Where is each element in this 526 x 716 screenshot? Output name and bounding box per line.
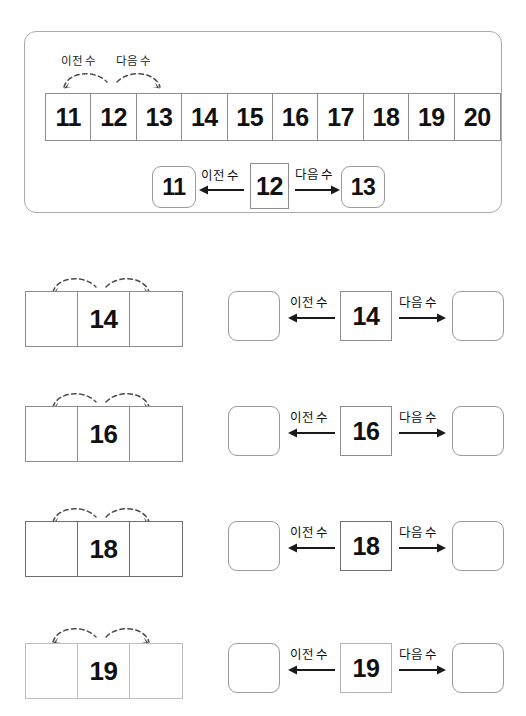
exercise-3-number-strip: 18 <box>25 521 183 577</box>
strip-cell-previous[interactable] <box>26 644 78 698</box>
strip-cell-next[interactable] <box>130 292 182 346</box>
exercise-4-previous-answer-box[interactable] <box>228 643 280 693</box>
strip-cell: 11 <box>46 94 91 140</box>
exercise-1-arrow-left <box>288 312 336 324</box>
exercise-3-arrow-right <box>398 542 446 554</box>
strip-cell-next[interactable] <box>130 644 182 698</box>
exercise-4-number-strip: 19 <box>25 643 183 699</box>
exercise-4-arrow-left <box>288 664 336 676</box>
strip-cell-given: 16 <box>78 407 130 461</box>
example-flow-next-label: 다음 수 <box>295 164 333 183</box>
arc-next-path <box>117 74 160 87</box>
strip-cell-given: 14 <box>78 292 130 346</box>
strip-cell-next[interactable] <box>130 407 182 461</box>
exercise-4-next-label: 다음 수 <box>399 644 437 663</box>
exercise-1-number-strip: 14 <box>25 291 183 347</box>
example-flow-previous-label: 이전 수 <box>201 165 239 184</box>
exercise-3-next-label: 다음 수 <box>399 522 437 541</box>
exercise-4-given-number-box: 19 <box>340 643 392 693</box>
exercise-2-next-answer-box[interactable] <box>452 406 504 456</box>
exercise-1-previous-answer-box[interactable] <box>228 291 280 341</box>
strip-cell-previous[interactable] <box>26 292 78 346</box>
exercise-4-previous-label: 이전 수 <box>290 644 328 663</box>
strip-cell-given: 18 <box>78 522 130 576</box>
example-number-strip: 11 12 13 14 15 16 17 18 19 20 <box>45 93 501 141</box>
arc-previous-path <box>64 74 107 87</box>
exercise-3-given-number-box: 18 <box>340 521 392 571</box>
strip-cell-previous[interactable] <box>26 522 78 576</box>
exercise-2-next-label: 다음 수 <box>399 407 437 426</box>
strip-cell: 16 <box>273 94 318 140</box>
example-next-box: 13 <box>341 166 385 208</box>
strip-cell: 14 <box>182 94 227 140</box>
strip-cell: 20 <box>455 94 500 140</box>
strip-cell: 12 <box>91 94 136 140</box>
exercise-4-arrow-right <box>398 664 446 676</box>
strip-cell-given: 19 <box>78 644 130 698</box>
strip-cell-previous[interactable] <box>26 407 78 461</box>
exercise-4-next-answer-box[interactable] <box>452 643 504 693</box>
exercise-1-arrow-right <box>398 312 446 324</box>
strip-cell: 15 <box>228 94 273 140</box>
exercise-3-next-answer-box[interactable] <box>452 521 504 571</box>
strip-cell: 18 <box>364 94 409 140</box>
example-arrow-left <box>199 184 245 196</box>
example-arrow-right <box>294 184 340 196</box>
strip-cell: 13 <box>137 94 182 140</box>
strip-cell-next[interactable] <box>130 522 182 576</box>
exercise-1-next-label: 다음 수 <box>399 292 437 311</box>
exercise-3-previous-label: 이전 수 <box>290 522 328 541</box>
example-center-number-box: 12 <box>250 163 289 209</box>
strip-cell: 19 <box>409 94 454 140</box>
exercise-1-given-number-box: 14 <box>340 291 392 341</box>
exercise-1-next-answer-box[interactable] <box>452 291 504 341</box>
exercise-2-arrow-right <box>398 427 446 439</box>
exercise-3-previous-answer-box[interactable] <box>228 521 280 571</box>
example-arc-group <box>55 66 175 94</box>
exercise-2-previous-answer-box[interactable] <box>228 406 280 456</box>
exercise-2-previous-label: 이전 수 <box>290 407 328 426</box>
example-previous-box: 11 <box>152 166 196 208</box>
exercise-2-given-number-box: 16 <box>340 406 392 456</box>
exercise-1-previous-label: 이전 수 <box>290 292 328 311</box>
exercise-2-arrow-left <box>288 427 336 439</box>
exercise-3-arrow-left <box>288 542 336 554</box>
exercise-2-number-strip: 16 <box>25 406 183 462</box>
strip-cell: 17 <box>318 94 363 140</box>
